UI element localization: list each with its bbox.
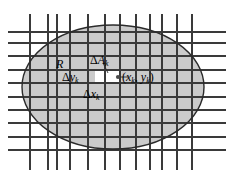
delta-symbol-area: Δ bbox=[90, 53, 98, 67]
area-subscript: k bbox=[105, 59, 109, 68]
delta-x-subscript: k bbox=[96, 93, 100, 102]
delta-y-subscript: k bbox=[75, 76, 79, 85]
point-y-subscript: k bbox=[146, 76, 150, 85]
label-region-r-text: R bbox=[56, 57, 63, 71]
sample-point-marker bbox=[116, 75, 120, 79]
label-delta-x: Δxk bbox=[83, 88, 100, 100]
label-delta-area: ΔAk bbox=[90, 54, 109, 66]
paren-close: ) bbox=[150, 70, 154, 84]
point-x-subscript: k bbox=[131, 76, 135, 85]
label-region-r: R bbox=[56, 58, 63, 70]
label-sample-point: (xk, yk) bbox=[122, 71, 154, 83]
delta-symbol-y: Δ bbox=[62, 70, 70, 84]
area-symbol: A bbox=[98, 53, 105, 67]
delta-symbol-x: Δ bbox=[83, 87, 91, 101]
region-partition-figure: R ΔAk Δyk Δxk (xk, yk) bbox=[0, 0, 234, 177]
figure-canvas bbox=[0, 0, 234, 177]
label-delta-y: Δyk bbox=[62, 71, 79, 83]
